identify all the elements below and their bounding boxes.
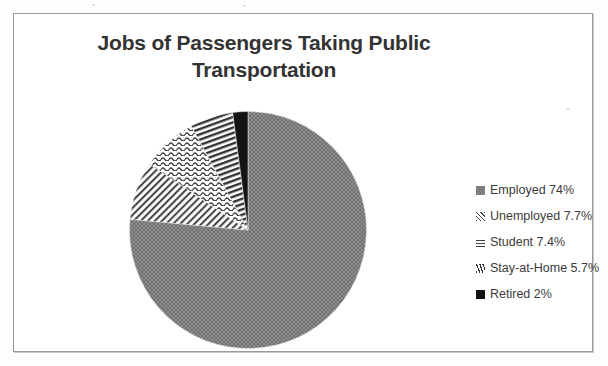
legend-swatch-unemployed (476, 212, 485, 221)
legend-item-employed: Employed 74% (476, 177, 602, 203)
legend-item-unemployed: Unemployed 7.7% (476, 203, 602, 229)
legend-swatch-student (476, 238, 485, 247)
legend-swatch-stay-at-home (476, 264, 485, 273)
legend-label-unemployed: Unemployed 7.7% (490, 210, 592, 223)
chart-legend: Employed 74% Unemployed 7.7% Student 7.4… (476, 177, 602, 307)
scan-speck (243, 5, 246, 7)
chart-title-line-2: Transportation (54, 57, 474, 84)
scan-speck (566, 108, 570, 110)
chart-frame: Jobs of Passengers Taking Public Transpo… (13, 13, 593, 352)
legend-swatch-employed (476, 186, 485, 195)
pie-chart-svg (129, 111, 367, 349)
legend-swatch-retired (476, 290, 485, 299)
legend-label-student: Student 7.4% (490, 236, 565, 249)
legend-label-employed: Employed 74% (490, 184, 574, 197)
chart-title-line-1: Jobs of Passengers Taking Public (54, 30, 474, 57)
legend-label-retired: Retired 2% (490, 288, 552, 301)
legend-item-retired: Retired 2% (476, 281, 602, 307)
scan-speck (92, 4, 95, 6)
legend-label-stay-at-home: Stay-at-Home 5.7% (490, 262, 599, 275)
legend-item-stay-at-home: Stay-at-Home 5.7% (476, 255, 602, 281)
chart-title: Jobs of Passengers Taking Public Transpo… (54, 30, 474, 84)
pie-chart (129, 111, 367, 349)
legend-item-student: Student 7.4% (476, 229, 602, 255)
pie-slice-group (130, 112, 367, 349)
